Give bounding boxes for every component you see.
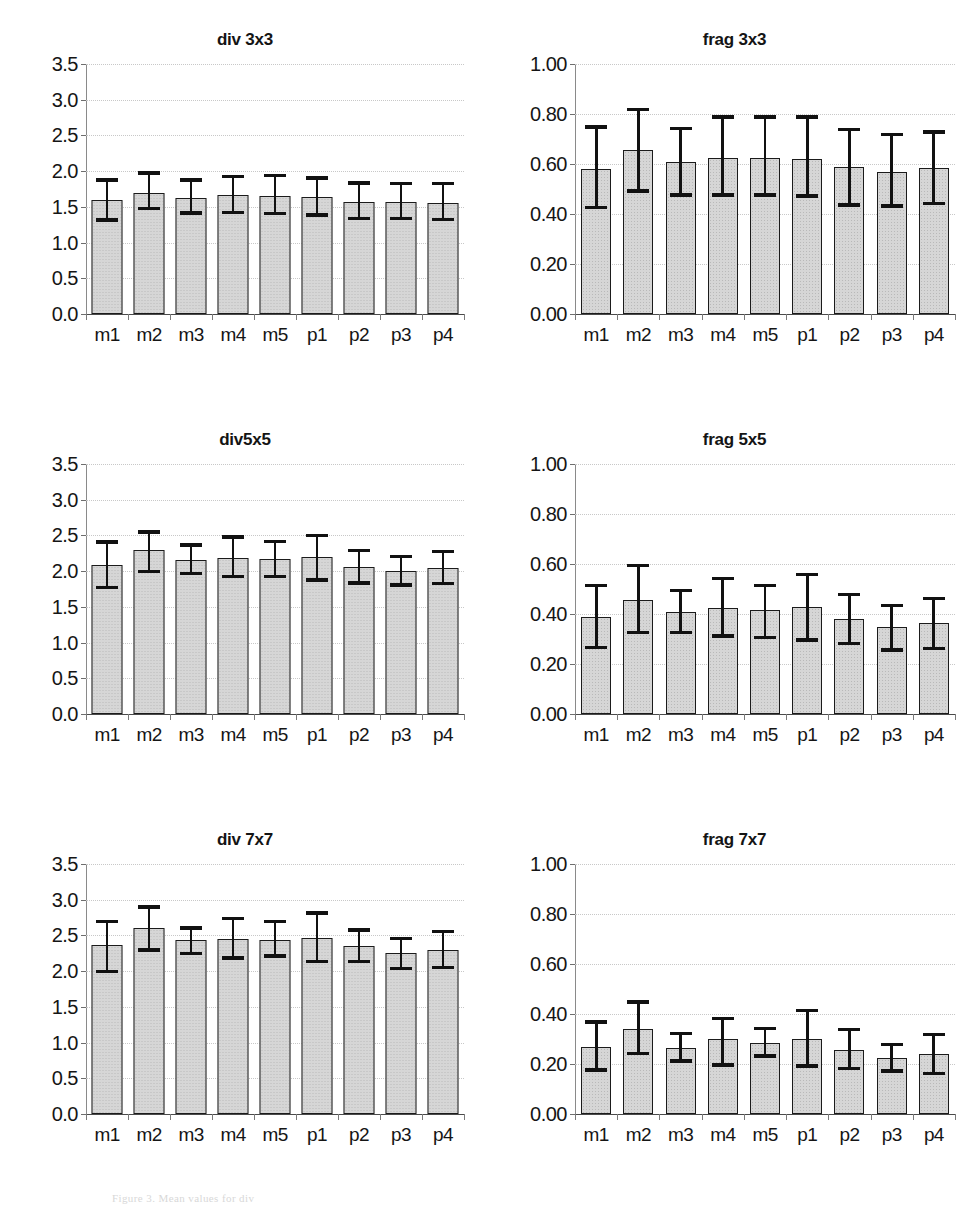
- error-bar-cap-upper: [838, 593, 860, 596]
- error-bar-line: [316, 176, 319, 217]
- x-tick-label: p4: [433, 1124, 453, 1146]
- bar-group: [296, 864, 338, 1114]
- error-bar-cap-upper: [348, 549, 370, 552]
- x-tick-mark: [617, 314, 618, 320]
- bar: [176, 940, 207, 1114]
- error-bar-line: [274, 174, 277, 215]
- bar-group: [575, 64, 617, 314]
- x-tick-mark: [871, 1114, 872, 1120]
- bar: [176, 560, 207, 714]
- error-bar-cap-lower: [838, 203, 860, 206]
- error-bar-cap-upper: [138, 905, 160, 908]
- x-tick-label: m2: [136, 724, 161, 746]
- error-bar-cap-upper: [754, 584, 776, 587]
- y-tick-label: 0.5: [52, 667, 78, 690]
- error-bar-line: [232, 917, 235, 960]
- error-bar-cap-lower: [180, 572, 202, 575]
- error-bar-cap-lower: [754, 193, 776, 196]
- y-tick-label: 0.0: [52, 1103, 78, 1126]
- x-tick-mark: [212, 1114, 213, 1120]
- bar: [134, 550, 165, 714]
- y-tick-label: 1.0: [52, 631, 78, 654]
- bar-group: [212, 864, 254, 1114]
- y-tick-label: 0.20: [530, 253, 567, 276]
- y-tick-label: 1.0: [52, 231, 78, 254]
- x-tick-label: p2: [349, 724, 369, 746]
- y-tick-label: 2.5: [52, 124, 78, 147]
- plot-area: 0.000.200.400.600.801.00: [575, 864, 955, 1114]
- bar-group: [744, 864, 786, 1114]
- error-bar-cap-lower: [881, 204, 903, 207]
- bar-group: [744, 64, 786, 314]
- bar: [260, 559, 291, 714]
- bar: [134, 928, 165, 1114]
- y-tick-label: 0.60: [530, 153, 567, 176]
- error-bar-line: [400, 555, 403, 587]
- x-tick-mark: [786, 714, 787, 720]
- bar-series: [575, 64, 955, 314]
- x-tick-mark: [170, 314, 171, 320]
- error-bar-cap-upper: [796, 1009, 818, 1012]
- bar-group: [828, 864, 870, 1114]
- x-tick-label: m1: [584, 1124, 609, 1146]
- x-tick-mark: [170, 714, 171, 720]
- bar-group: [170, 64, 212, 314]
- error-bar-line: [316, 911, 319, 963]
- bar-group: [254, 464, 296, 714]
- error-bar-line: [232, 175, 235, 214]
- y-tick-label: 0.20: [530, 653, 567, 676]
- error-bar-cap-lower: [348, 217, 370, 220]
- x-tick-label: m1: [584, 724, 609, 746]
- y-tick-label: 1.5: [52, 595, 78, 618]
- error-bar-line: [316, 534, 319, 582]
- bar: [218, 558, 249, 714]
- bar: [428, 568, 459, 714]
- error-bar-cap-upper: [881, 1043, 903, 1046]
- bar: [386, 571, 417, 714]
- error-bar-cap-upper: [264, 174, 286, 177]
- error-bar-cap-upper: [390, 555, 412, 558]
- x-tick-mark: [617, 1114, 618, 1120]
- y-tick-label: 3.5: [52, 53, 78, 76]
- error-bar-cap-lower: [264, 575, 286, 578]
- x-tick-label: p1: [797, 1124, 817, 1146]
- error-bar-line: [764, 1027, 767, 1058]
- x-tick-label: p3: [882, 724, 902, 746]
- x-tick-label: m3: [668, 1124, 693, 1146]
- error-bar-line: [274, 920, 277, 958]
- x-tick-label: p2: [839, 324, 859, 346]
- error-bar-cap-upper: [627, 1000, 649, 1003]
- x-tick-mark: [464, 314, 465, 320]
- x-tick-mark: [86, 1114, 87, 1120]
- bar-series: [575, 464, 955, 714]
- error-bar-cap-upper: [96, 178, 118, 181]
- y-tick-label: 0.5: [52, 267, 78, 290]
- x-tick-mark: [659, 1114, 660, 1120]
- x-tick-label: p4: [924, 324, 944, 346]
- x-tick-mark: [128, 314, 129, 320]
- error-bar-line: [106, 920, 109, 974]
- x-tick-mark: [575, 314, 576, 320]
- error-bar-cap-upper: [712, 577, 734, 580]
- bar: [218, 939, 249, 1114]
- x-tick-mark: [338, 314, 339, 320]
- bar-group: [617, 64, 659, 314]
- x-tick-label: p2: [839, 724, 859, 746]
- bar-group: [659, 864, 701, 1114]
- error-bar-cap-upper: [712, 115, 734, 118]
- error-bar-cap-lower: [670, 1059, 692, 1062]
- error-bar-cap-upper: [348, 181, 370, 184]
- error-bar-cap-lower: [923, 1072, 945, 1075]
- error-bar-cap-lower: [348, 960, 370, 963]
- error-bar-cap-lower: [796, 1064, 818, 1067]
- error-bar-line: [806, 573, 809, 642]
- y-tick-label: 1.0: [52, 1031, 78, 1054]
- error-bar-cap-upper: [712, 1017, 734, 1020]
- bar-group: [617, 464, 659, 714]
- bar-group: [128, 64, 170, 314]
- error-bar-cap-upper: [96, 540, 118, 543]
- bar-group: [338, 864, 380, 1114]
- bar-series: [86, 464, 464, 714]
- bar-group: [380, 864, 422, 1114]
- bar-series: [86, 64, 464, 314]
